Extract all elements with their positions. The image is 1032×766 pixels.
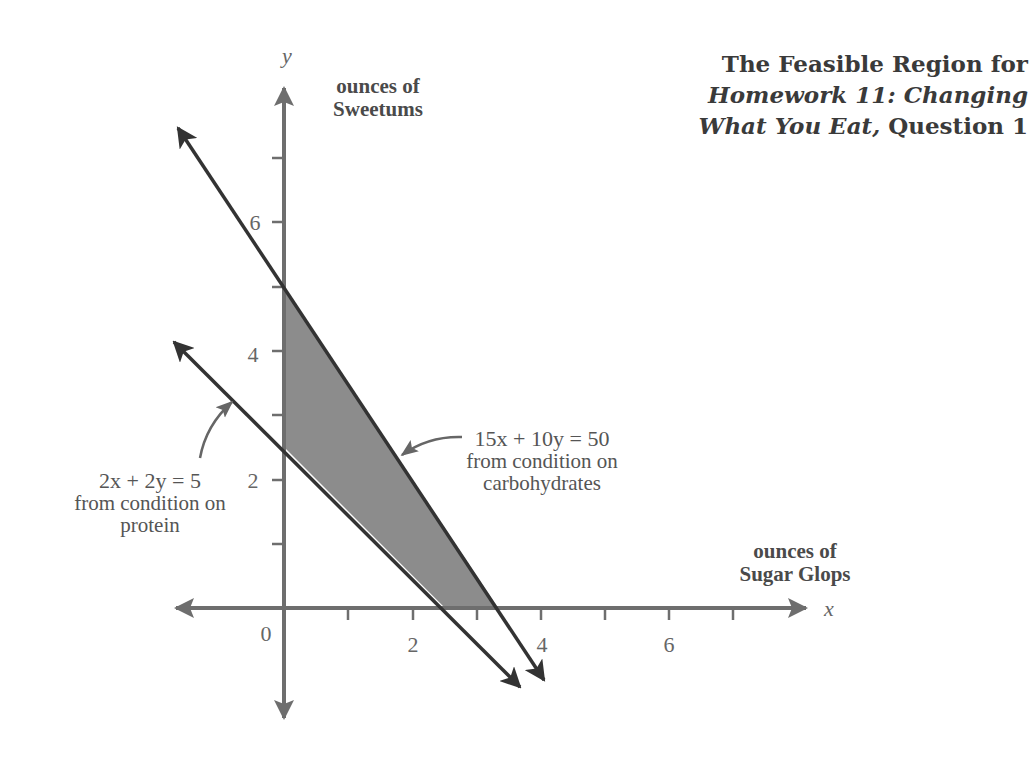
title-line-1: The Feasible Region for — [699, 48, 1028, 79]
title-line-3: What You Eat, Question 1 — [699, 110, 1028, 141]
protein-callout-arrow — [200, 402, 232, 458]
x-axis-title-line-1: ounces of — [710, 540, 880, 563]
carbohydrate-constraint-line — [178, 128, 544, 680]
protein-annotation-line-2: from condition on — [40, 492, 260, 514]
y-axis-title-line-2: Sweetums — [308, 98, 448, 121]
title-line-2: Homework 11: Changing — [699, 79, 1028, 110]
x-axis-variable: x — [824, 596, 834, 622]
carbs-annotation-line-2: from condition on — [442, 450, 642, 472]
carbs-annotation-line-3: carbohydrates — [442, 472, 642, 494]
x-axis-title-line-2: Sugar Glops — [710, 563, 880, 586]
protein-equation: 2x + 2y = 5 — [40, 470, 260, 492]
carbs-annotation: 15x + 10y = 50 from condition on carbohy… — [442, 428, 642, 494]
x-tick-label-6: 6 — [664, 632, 675, 658]
x-tick-label-2: 2 — [408, 632, 419, 658]
protein-annotation-line-3: protein — [40, 514, 260, 536]
y-axis-variable: y — [282, 43, 292, 69]
y-tick-label-6: 6 — [250, 210, 261, 236]
x-tick-label-4: 4 — [537, 632, 548, 658]
x-axis-title: ounces of Sugar Glops — [710, 540, 880, 586]
origin-label: 0 — [261, 621, 272, 647]
chart-title: The Feasible Region for Homework 11: Cha… — [699, 48, 1028, 141]
y-tick-label-4: 4 — [248, 342, 259, 368]
protein-annotation: 2x + 2y = 5 from condition on protein — [40, 470, 260, 536]
carbs-equation: 15x + 10y = 50 — [442, 428, 642, 450]
title-line-3-rest: Question 1 — [880, 112, 1028, 139]
title-line-3-italic: What You Eat, — [699, 112, 881, 139]
y-axis-title-line-1: ounces of — [308, 75, 448, 98]
y-axis-title: ounces of Sweetums — [308, 75, 448, 121]
